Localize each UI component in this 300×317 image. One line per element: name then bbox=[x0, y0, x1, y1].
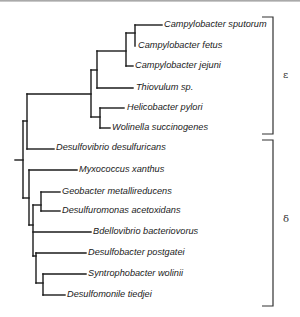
leaf-label: Campylobacter jejuni bbox=[135, 61, 221, 70]
leaf-label: Campylobacter fetus bbox=[138, 41, 222, 50]
clade-bracket-delta bbox=[262, 140, 273, 306]
clade-label-delta: δ bbox=[283, 214, 289, 224]
leaf-label: Bdellovibrio bacteriovorus bbox=[93, 227, 198, 236]
leaf-label: Syntrophobacter wolinii bbox=[88, 269, 183, 278]
leaf-label: Wolinella succinogenes bbox=[112, 123, 208, 132]
leaf-label: Desulfomonile tiedjei bbox=[67, 290, 152, 299]
leaf-label: Helicobacter pylori bbox=[127, 103, 203, 112]
leaf-label: Geobacter metallireducens bbox=[62, 187, 172, 196]
clade-bracket-epsilon bbox=[262, 17, 273, 134]
leaf-label: Desulfovibrio desulfuricans bbox=[56, 143, 166, 152]
leaf-label: Thiovulum sp. bbox=[136, 83, 193, 92]
leaf-label: Campylobacter sputorum bbox=[164, 20, 267, 29]
leaf-label: Desulfobacter postgatei bbox=[88, 248, 185, 257]
leaf-label: Desulfuromonas acetoxidans bbox=[62, 206, 180, 215]
clade-label-epsilon: ε bbox=[283, 70, 288, 80]
leaf-label: Myxococcus xanthus bbox=[79, 165, 164, 174]
